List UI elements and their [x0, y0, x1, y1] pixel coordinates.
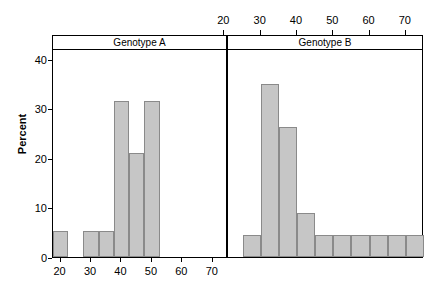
x-axis-tick	[296, 30, 297, 35]
x-axis-tick-label: 20	[48, 265, 72, 277]
x-axis-tick	[260, 30, 261, 35]
histogram-bar	[351, 235, 369, 257]
panel-strip-genotype-a: Genotype A	[52, 35, 227, 50]
histogram-bar	[243, 235, 261, 257]
x-axis-tick-label: 30	[248, 14, 272, 26]
panel-strip-genotype-b: Genotype B	[227, 35, 423, 50]
x-axis-tick-label: 70	[200, 265, 224, 277]
x-axis-tick	[369, 30, 370, 35]
x-axis-tick	[223, 30, 224, 35]
x-axis-tick	[405, 30, 406, 35]
histogram-bar	[114, 101, 129, 257]
x-axis-tick-label: 60	[169, 265, 193, 277]
x-axis-tick-label: 30	[78, 265, 102, 277]
x-axis-tick	[181, 258, 182, 262]
x-axis-tick	[120, 258, 121, 262]
x-axis-tick	[60, 258, 61, 262]
plot-panel-genotype-b	[227, 50, 423, 258]
histogram-bar	[53, 231, 68, 257]
y-axis-tick	[48, 258, 52, 259]
x-axis-tick-label: 20	[211, 14, 235, 26]
histogram-bar	[297, 213, 315, 257]
histogram-bar	[315, 235, 333, 257]
histogram-bar	[83, 231, 98, 257]
y-axis-tick-label: 40	[17, 55, 47, 65]
histogram-bar	[99, 231, 114, 257]
y-axis-tick-label: 0	[17, 253, 47, 263]
histogram-bar	[388, 235, 406, 257]
x-axis-tick-label: 50	[320, 14, 344, 26]
x-axis-tick-label: 40	[284, 14, 308, 26]
plot-panel-genotype-a	[52, 50, 227, 258]
x-axis-tick-label: 60	[357, 14, 381, 26]
x-axis-tick-label: 40	[108, 265, 132, 277]
x-axis-tick-label: 70	[393, 14, 417, 26]
x-axis-tick-label: 50	[139, 265, 163, 277]
histogram-bar	[406, 235, 424, 257]
x-axis-tick	[212, 258, 213, 262]
histogram-bar	[144, 101, 159, 257]
histogram-bar	[129, 153, 144, 257]
y-axis-tick-label: 10	[17, 203, 47, 213]
histogram-figure: Percent 010203040 Genotype A Genotype B …	[0, 0, 426, 296]
histogram-bar	[279, 127, 297, 257]
x-axis-tick	[90, 258, 91, 262]
x-axis-tick	[151, 258, 152, 262]
histogram-bar	[333, 235, 351, 257]
histogram-bar	[261, 84, 279, 257]
y-axis-tick-label: 30	[17, 104, 47, 114]
histogram-bar	[370, 235, 388, 257]
y-axis-tick-label: 20	[17, 154, 47, 164]
x-axis-tick	[332, 30, 333, 35]
